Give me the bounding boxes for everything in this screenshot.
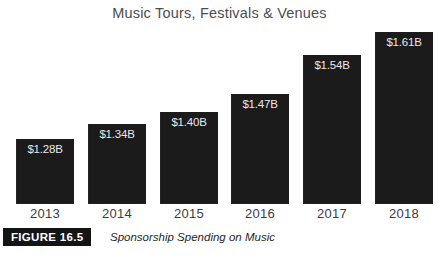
bar-group: $1.34B bbox=[88, 0, 146, 204]
bar-value-label: $1.47B bbox=[231, 98, 289, 110]
chart-plot-area: $1.28B$1.34B$1.40B$1.47B$1.54B$1.61B bbox=[0, 0, 439, 204]
bar-value-label: $1.34B bbox=[88, 128, 146, 140]
x-tick-label-2013: 2013 bbox=[16, 206, 74, 221]
bar[interactable] bbox=[375, 32, 433, 204]
figure-caption: FIGURE 16.5 Sponsorship Spending on Musi… bbox=[0, 228, 439, 250]
figure-caption-text: Sponsorship Spending on Music bbox=[110, 228, 275, 246]
bar-value-label: $1.40B bbox=[160, 116, 218, 128]
figure-container: Music Tours, Festivals & Venues $1.28B$1… bbox=[0, 0, 439, 255]
bar-group: $1.54B bbox=[303, 0, 361, 204]
figure-number-badge: FIGURE 16.5 bbox=[3, 228, 91, 246]
x-tick-label-2015: 2015 bbox=[160, 206, 218, 221]
bar-group: $1.40B bbox=[160, 0, 218, 204]
bar-group: $1.28B bbox=[16, 0, 74, 204]
bar-value-label: $1.61B bbox=[375, 36, 433, 48]
bar-group: $1.47B bbox=[231, 0, 289, 204]
x-tick-label-2014: 2014 bbox=[88, 206, 146, 221]
x-axis: 201320142015201620172018 bbox=[0, 204, 439, 228]
bar[interactable] bbox=[303, 55, 361, 204]
x-tick-label-2017: 2017 bbox=[303, 206, 361, 221]
bar-value-label: $1.28B bbox=[16, 143, 74, 155]
bar-group: $1.61B bbox=[375, 0, 433, 204]
x-tick-label-2016: 2016 bbox=[231, 206, 289, 221]
x-tick-label-2018: 2018 bbox=[375, 206, 433, 221]
bar[interactable] bbox=[231, 94, 289, 204]
bar-value-label: $1.54B bbox=[303, 59, 361, 71]
